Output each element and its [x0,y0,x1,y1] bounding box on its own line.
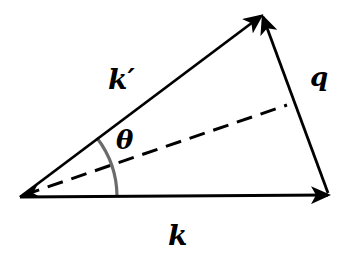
vector-q-arrow [263,17,328,193]
vector-k-arrow [20,195,328,197]
label-k: k [168,222,187,250]
label-theta: θ [116,127,133,153]
dashed-bisector-line [24,105,287,195]
label-q: q [310,64,328,90]
vector-k-prime-arrow [20,16,261,197]
label-k-prime: k′ [108,66,135,94]
